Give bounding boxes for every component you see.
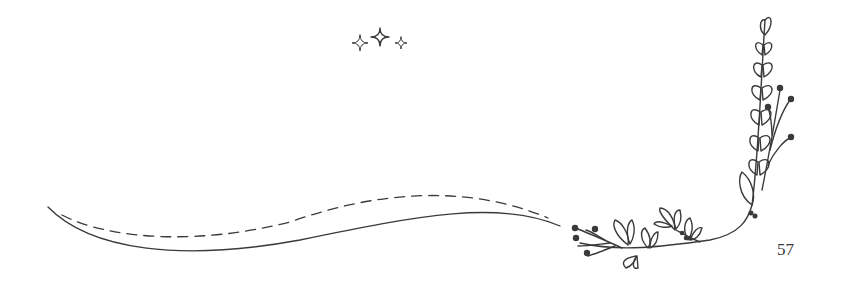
- page-number: 57: [777, 240, 794, 260]
- sparkles-icon: [352, 28, 407, 51]
- small-sparkle-icon: [352, 35, 368, 51]
- solid-curve: [48, 207, 560, 251]
- decoration-art: [0, 0, 842, 303]
- swoosh-lines: [48, 196, 560, 251]
- corner-floral-branch-icon: [573, 18, 794, 269]
- dashed-curve: [62, 196, 548, 237]
- small-sparkle-icon: [395, 37, 407, 49]
- page: 57: [0, 0, 842, 303]
- large-sparkle-icon: [371, 28, 389, 46]
